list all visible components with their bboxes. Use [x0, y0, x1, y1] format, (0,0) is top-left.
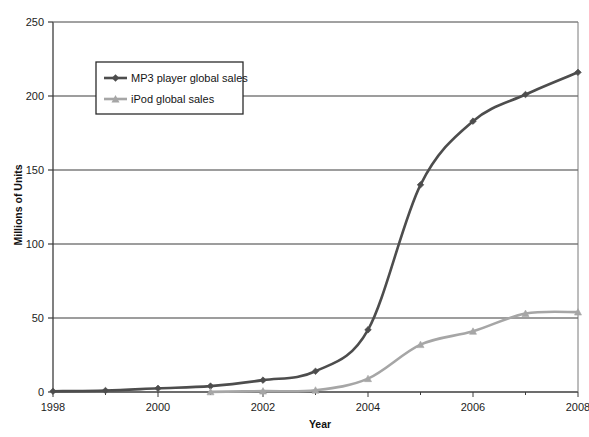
- legend-label: iPod global sales: [131, 93, 215, 105]
- legend-box: [96, 62, 243, 114]
- y-tick-label: 50: [32, 312, 44, 324]
- y-tick-label: 250: [26, 16, 44, 28]
- y-tick-label: 100: [26, 238, 44, 250]
- x-tick-label: 1998: [41, 401, 65, 413]
- x-tick-label: 2004: [356, 401, 380, 413]
- y-tick-label: 0: [38, 386, 44, 398]
- y-tick-label: 200: [26, 90, 44, 102]
- x-tick-label: 2000: [146, 401, 170, 413]
- x-tick-label: 2002: [251, 401, 275, 413]
- y-axis-title: Millions of Units: [12, 164, 24, 245]
- legend-label: MP3 player global sales: [131, 72, 248, 84]
- chart-container: 050100150200250 199820002002200420062008…: [0, 0, 589, 437]
- x-tick-label: 2006: [461, 401, 485, 413]
- y-tick-label: 150: [26, 164, 44, 176]
- line-chart: 050100150200250 199820002002200420062008…: [0, 0, 589, 437]
- x-tick-label: 2008: [566, 401, 589, 413]
- chart-legend: MP3 player global salesiPod global sales: [96, 62, 248, 114]
- chart-background: [0, 0, 589, 437]
- x-axis-title: Year: [309, 418, 331, 430]
